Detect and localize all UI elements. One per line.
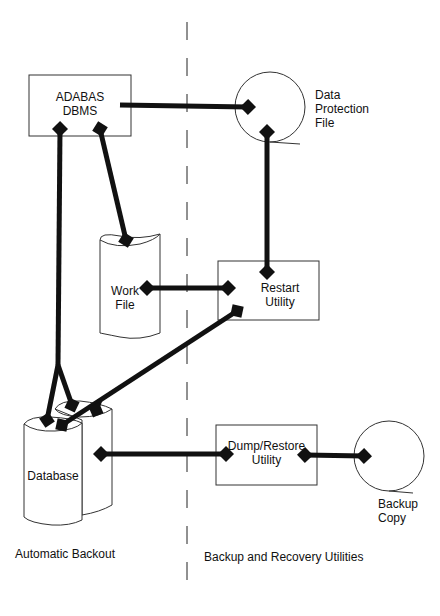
work-file-label: Work File: [100, 284, 150, 312]
arrow-branch-database-front: [47, 365, 58, 420]
backupcopy-line2: Copy: [378, 511, 418, 525]
data-protection-file-label: Data Protection File: [315, 88, 369, 130]
workfile-line1: Work: [100, 284, 150, 298]
dumprestore-line2: Utility: [216, 453, 317, 467]
adabas-line1: ADABAS: [29, 90, 131, 104]
restart-line1: Restart: [240, 281, 320, 295]
section-label-backup-recovery: Backup and Recovery Utilities: [204, 550, 363, 564]
workfile-line2: File: [100, 298, 150, 312]
dpf-line2: Protection: [315, 102, 369, 116]
dpf-line1: Data: [315, 88, 369, 102]
arrow-adabas-to-dataprotection: [120, 105, 248, 107]
database-text: Database: [27, 469, 78, 483]
dpf-line3: File: [315, 116, 369, 130]
backup-copy-icon: [354, 421, 424, 493]
arrow-database-to-adabas: [58, 129, 60, 365]
backup-copy-label: Backup Copy: [378, 497, 418, 525]
section-label-automatic-backout: Automatic Backout: [15, 547, 115, 561]
adabas-line2: DBMS: [29, 104, 131, 118]
adabas-dbms-label: ADABAS DBMS: [29, 90, 131, 118]
backupcopy-line1: Backup: [378, 497, 418, 511]
database-label: Database: [24, 469, 82, 483]
dumprestore-line1: Dump/Restore: [216, 439, 317, 453]
restart-utility-label: Restart Utility: [240, 281, 320, 309]
dump-restore-utility-label: Dump/Restore Utility: [216, 439, 317, 467]
restart-line2: Utility: [240, 295, 320, 309]
arrow-adabas-to-workfile: [100, 129, 126, 240]
arrow-branch-database-back: [58, 365, 72, 405]
